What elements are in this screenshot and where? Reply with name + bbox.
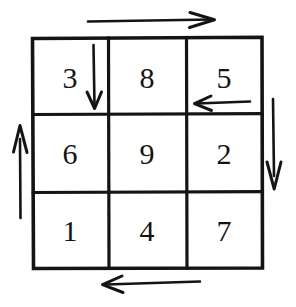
arrow-top-right-glyph (88, 13, 215, 28)
cell-r1c2: 8 (108, 39, 186, 116)
cell-r2c1: 6 (32, 115, 108, 193)
arrow-right-down-glyph (267, 99, 281, 189)
cell-r3c3: 7 (186, 193, 262, 269)
arrow-bottom-left-glyph (103, 276, 201, 293)
cell-r1c3: 5 (186, 39, 262, 116)
cell-r3c1: 1 (32, 193, 108, 269)
figure-canvas: 3 8 5 6 9 2 1 4 7 (0, 0, 296, 307)
cell-r2c2: 9 (108, 115, 186, 193)
cell-r2c3: 2 (186, 115, 262, 193)
cell-r1c1: 3 (32, 39, 108, 116)
arrow-left-up-glyph (14, 126, 28, 219)
cell-r3c2: 4 (108, 193, 186, 269)
